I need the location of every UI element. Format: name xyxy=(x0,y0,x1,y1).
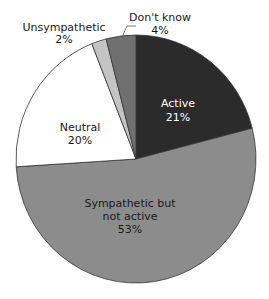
label-neutral-name: Neutral xyxy=(60,121,101,134)
label-active: Active 21% xyxy=(161,97,195,124)
label-dont-know-name: Don't know xyxy=(129,11,191,24)
label-active-pct: 21% xyxy=(166,111,190,124)
label-sympathetic-line2: not active xyxy=(103,210,158,223)
label-active-name: Active xyxy=(161,97,195,110)
pie-chart: Active 21% Sympathetic but not active 53… xyxy=(0,0,269,299)
label-unsympathetic-pct: 2% xyxy=(55,33,72,46)
label-dont-know: Don't know 4% xyxy=(129,11,191,37)
label-sympathetic-name: Sympathetic but xyxy=(84,197,176,210)
label-unsympathetic: Unsympathetic 2% xyxy=(22,21,105,46)
label-sympathetic-pct: 53% xyxy=(118,223,142,236)
label-dont-know-pct: 4% xyxy=(151,24,168,37)
label-neutral-pct: 20% xyxy=(68,134,92,147)
